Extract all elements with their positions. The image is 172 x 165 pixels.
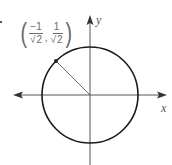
x-radicand: 2 [36,33,43,45]
separator: , [45,32,48,43]
point-coordinate-label: ( −1 √2 , 1 √2 ) [19,19,73,47]
close-paren: ) [65,19,72,47]
x-fraction: −1 √2 [29,22,42,45]
x-denominator: √2 [30,34,42,45]
y-radicand: 2 [56,33,63,45]
y-fraction: 1 √2 [51,22,63,45]
y-denominator: √2 [51,34,63,45]
point-marker [54,59,58,63]
radius-line [56,61,90,95]
x-axis-label: x [161,102,166,114]
y-numerator: 1 [53,22,61,34]
sqrt-icon: √ [30,34,36,45]
unit-circle-diagram: y x ( −1 √2 , 1 √2 ) [0,0,172,165]
y-axis-label: y [96,14,101,26]
x-numerator: −1 [29,22,42,34]
open-paren: ( [20,19,27,47]
